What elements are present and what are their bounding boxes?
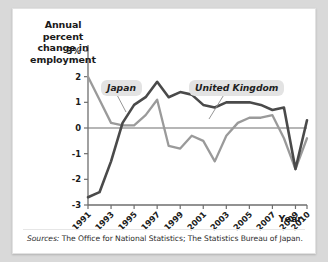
y-tick-label: -3 bbox=[72, 200, 81, 210]
sources-prefix: Sources: bbox=[27, 234, 59, 243]
y-axis-title-line-4: employment bbox=[25, 54, 101, 66]
y-tick-label: 1 bbox=[75, 97, 81, 107]
chart-figure: 3%210-1-2-319911993199519971999200120032… bbox=[12, 8, 316, 254]
y-tick-label: 0 bbox=[75, 123, 81, 133]
y-axis-title: Annual percent change in employment bbox=[25, 19, 101, 65]
y-tick-label: -2 bbox=[72, 174, 81, 184]
series-line-united-kingdom bbox=[88, 82, 307, 198]
series-label-japan: Japan bbox=[101, 80, 142, 96]
y-axis-title-line-1: Annual bbox=[25, 19, 101, 31]
label-leader-line bbox=[116, 93, 126, 112]
sources-note: Sources: The Office for National Statist… bbox=[27, 234, 307, 244]
sources-text: The Office for National Statistics; The … bbox=[59, 234, 302, 243]
footer-divider bbox=[23, 229, 305, 230]
y-tick-label: -1 bbox=[72, 149, 81, 159]
series-label-united-kingdom: United Kingdom bbox=[189, 80, 284, 96]
x-axis-title: Year bbox=[278, 213, 302, 224]
y-tick-label: 2 bbox=[75, 72, 81, 82]
y-axis-title-line-2: percent bbox=[25, 31, 101, 43]
y-axis-title-line-3: change in bbox=[25, 42, 101, 54]
